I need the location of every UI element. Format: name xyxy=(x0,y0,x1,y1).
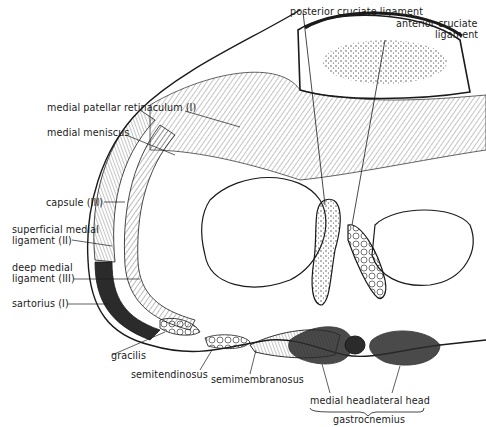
label-superficial-medial-line1: superficial medial xyxy=(12,224,99,235)
label-deep-medial-line1: deep medial xyxy=(12,262,73,273)
lateral-gastrocnemius xyxy=(370,331,440,365)
label-gracilis: gracilis xyxy=(111,350,146,361)
label-sartorius: sartorius (I) xyxy=(12,298,69,309)
posterior-cruciate-ligament xyxy=(312,199,340,305)
patella-stipple xyxy=(323,40,447,84)
label-anterior-cruciate-line2: ligament xyxy=(435,29,478,40)
label-medial-meniscus: medial meniscus xyxy=(47,127,129,138)
label-capsule: capsule (III) xyxy=(46,197,103,208)
label-medial-head: medial head xyxy=(310,395,371,406)
medial-meniscus-band xyxy=(124,125,195,330)
label-superficial-medial-line2: ligament (II) xyxy=(12,235,72,246)
popliteal-vessel xyxy=(345,336,365,354)
label-lateral-head: lateral head xyxy=(371,395,430,406)
label-anterior-cruciate-line1: anterior cruciate xyxy=(396,18,478,29)
semitendinosus-muscle xyxy=(205,335,250,349)
label-semitendinosus: semitendinosus xyxy=(131,369,208,380)
anatomy-drawing xyxy=(0,0,486,427)
medial-tibial-plateau xyxy=(202,178,326,287)
lateral-tibial-plateau xyxy=(372,210,473,285)
label-medial-patellar-retinaculum: medial patellar retinaculum (I) xyxy=(47,102,196,113)
label-gastrocnemius: gastrocnemius xyxy=(333,414,405,425)
label-deep-medial-line2: ligament (III) xyxy=(12,273,75,284)
knee-cross-section-diagram: posterior cruciate ligament anterior cru… xyxy=(0,0,486,427)
label-semimembranosus: semimembranosus xyxy=(211,374,304,385)
label-posterior-cruciate-ligament: posterior cruciate ligament xyxy=(290,6,423,17)
